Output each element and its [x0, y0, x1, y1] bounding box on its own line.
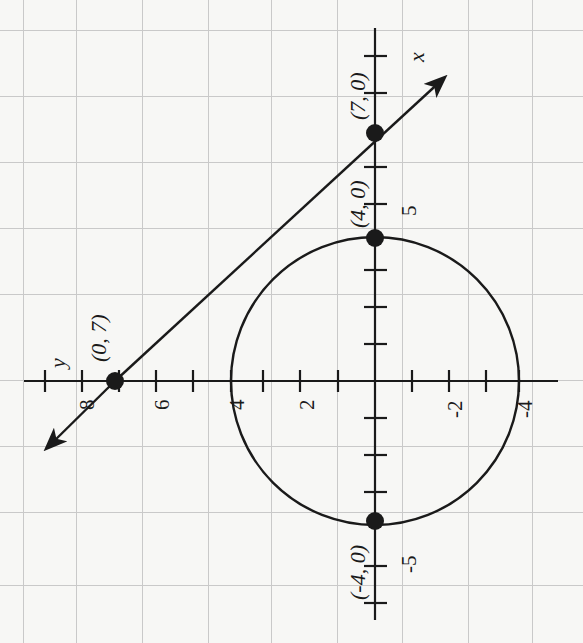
plot-canvas	[0, 0, 583, 643]
point-neg4-0	[366, 512, 384, 530]
graph-figure: x y 8 6 4 2 -2 -4 5 -5 (7, 0) (4, 0) (0,…	[0, 0, 583, 643]
point-4-0	[366, 229, 384, 247]
line-curve	[47, 78, 444, 448]
point-7-0	[366, 124, 384, 142]
marked-points	[106, 124, 384, 530]
point-0-7	[106, 372, 124, 390]
